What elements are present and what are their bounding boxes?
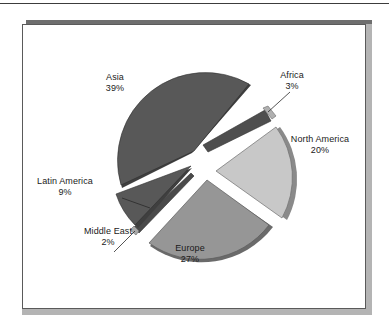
label-north-america-percent: 20%	[276, 145, 364, 156]
pie-svg	[22, 24, 368, 311]
header-rule	[0, 3, 389, 4]
chart-page: Asia 39% Africa 3% North America 20% Eur…	[0, 0, 389, 333]
label-europe-name: Europe	[160, 243, 220, 254]
label-europe-percent: 27%	[160, 254, 220, 265]
leader-line-africa	[268, 92, 290, 112]
label-asia: Asia 39%	[89, 72, 141, 94]
label-africa: Africa 3%	[262, 70, 322, 92]
label-north-america-name: North America	[276, 134, 364, 145]
label-latin-america: Latin America 9%	[22, 176, 108, 198]
label-africa-percent: 3%	[262, 81, 322, 92]
label-latin-america-name: Latin America	[22, 176, 108, 187]
label-europe: Europe 27%	[160, 243, 220, 265]
label-north-america: North America 20%	[276, 134, 364, 156]
label-middle-east: Middle East 2%	[66, 226, 150, 248]
label-asia-percent: 39%	[89, 83, 141, 94]
label-latin-america-percent: 9%	[22, 187, 108, 198]
label-asia-name: Asia	[89, 72, 141, 83]
pie-chart-plot	[22, 24, 368, 311]
label-middle-east-percent: 2%	[66, 237, 150, 248]
label-africa-name: Africa	[262, 70, 322, 81]
label-middle-east-name: Middle East	[66, 226, 150, 237]
